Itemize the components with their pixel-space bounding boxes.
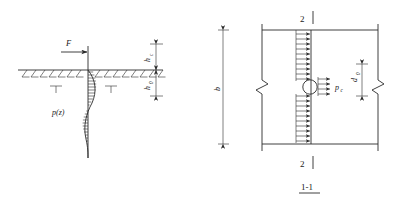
section-marker-bottom: 2 bbox=[300, 156, 313, 169]
soil-pressure-arrows-lower bbox=[296, 94, 310, 143]
engineering-figure: F bbox=[0, 0, 396, 206]
dimension-b: b bbox=[213, 30, 229, 144]
section-right-edge bbox=[372, 24, 384, 151]
dimension-h0-label: h 0 bbox=[143, 81, 154, 90]
hc-main: h bbox=[143, 58, 152, 62]
pc-main: p bbox=[334, 83, 339, 92]
dimension-b-label: b bbox=[213, 87, 222, 91]
pile-cross-section-circle bbox=[303, 80, 317, 94]
pressure-distribution-label: p(z) bbox=[51, 108, 65, 117]
ground-hatching-right bbox=[95, 70, 166, 77]
ground-hatching-left bbox=[22, 70, 84, 77]
soil-pressure-arrows-upper bbox=[296, 30, 310, 81]
pressure-distribution-curve bbox=[83, 70, 97, 158]
section-marker-bottom-label: 2 bbox=[300, 159, 305, 169]
hc-subscript: c bbox=[148, 53, 154, 56]
dimension-hc: h c bbox=[143, 44, 163, 70]
section-marker-top: 2 bbox=[300, 11, 313, 24]
section-marker-top-label: 2 bbox=[300, 14, 305, 24]
h0-subscript: 0 bbox=[148, 81, 154, 84]
dimension-d0-label: d 0 bbox=[350, 72, 361, 82]
right-panel: p c 2 2 b bbox=[213, 11, 384, 193]
pc-subscript: c bbox=[341, 87, 344, 93]
soil-symbol-left bbox=[50, 86, 62, 93]
section-left-edge bbox=[256, 24, 268, 151]
dimension-hc-label: h c bbox=[143, 53, 154, 62]
section-caption-label: 1-1 bbox=[301, 182, 313, 192]
dimension-d0: d 0 bbox=[350, 64, 368, 96]
pressure-pc-arrows bbox=[318, 77, 330, 96]
soil-symbol-right bbox=[105, 86, 117, 93]
left-panel: F bbox=[18, 39, 166, 158]
pressure-pc-label: p c bbox=[334, 83, 344, 93]
section-caption: 1-1 bbox=[299, 182, 320, 193]
d0-subscript: 0 bbox=[355, 72, 361, 75]
h0-main: h bbox=[143, 86, 152, 90]
force-label: F bbox=[65, 39, 72, 48]
figure-canvas: F bbox=[0, 0, 396, 206]
d0-main: d bbox=[350, 78, 359, 82]
